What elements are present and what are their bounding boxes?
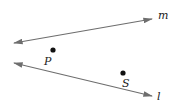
line-m-label: m bbox=[158, 9, 168, 22]
point-s-label: S bbox=[122, 77, 130, 90]
geometry-diagram: m l P S bbox=[0, 0, 176, 104]
line-l bbox=[14, 63, 152, 96]
line-m bbox=[14, 19, 152, 43]
point-p bbox=[50, 47, 55, 52]
line-l-label: l bbox=[157, 90, 161, 103]
point-s bbox=[120, 70, 125, 75]
point-p-label: P bbox=[43, 55, 52, 68]
